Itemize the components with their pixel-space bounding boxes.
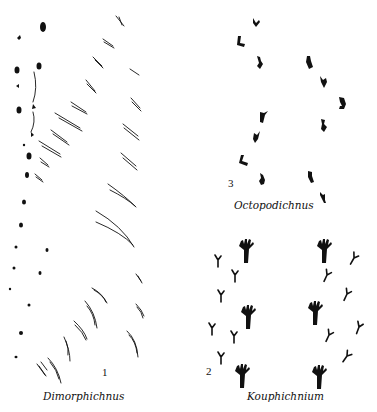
panel-octopodichnus: 3 Octopodichnus: [190, 0, 377, 230]
panel-number-2: 2: [206, 365, 212, 377]
panel-number-3: 3: [228, 177, 234, 189]
kouphichnium-footprints: [209, 239, 364, 389]
panel-label-octopodichnus: Octopodichnus: [234, 199, 314, 211]
dimorphichnus-scratch-marks: [35, 16, 144, 383]
dimorphichnus-trackway-drawing: [0, 0, 190, 412]
panel-dimorphichnus: 1 Dimorphichnus: [0, 0, 190, 412]
dimorphichnus-dot-marks: [9, 22, 49, 358]
panel-kouphichnium: 2 Kouphichnium: [190, 230, 377, 412]
octopodichnus-footprints: [237, 18, 346, 203]
panel-number-1: 1: [102, 366, 108, 378]
panel-label-kouphichnium: Kouphichnium: [247, 390, 324, 402]
octopodichnus-trackway-drawing: [190, 0, 377, 230]
kouphichnium-trackway-drawing: [190, 230, 377, 412]
panel-label-dimorphichnus: Dimorphichnus: [43, 390, 124, 402]
